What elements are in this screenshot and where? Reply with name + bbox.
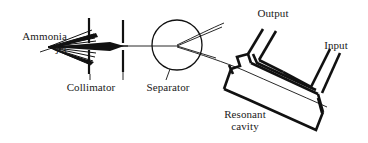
resonant-cavity-label-line2: cavity: [208, 120, 282, 132]
ammonia-jet-label-line2: jet: [5, 42, 67, 54]
ammonia-jet-label-line1: Ammonia: [5, 30, 67, 42]
separator-label: Separator: [136, 81, 200, 93]
collimator-label: Collimator: [58, 81, 124, 93]
schematic-drawing: [0, 0, 368, 143]
output-label: Output: [248, 7, 298, 19]
input-label: Input: [316, 39, 356, 51]
separator-leader: [166, 69, 170, 80]
resonant-cavity-label-line1: Resonant: [208, 108, 282, 120]
maser-schematic-figure: Ammonia jet Collimator Separator Output …: [0, 0, 368, 143]
input-waveguide: [283, 49, 340, 93]
